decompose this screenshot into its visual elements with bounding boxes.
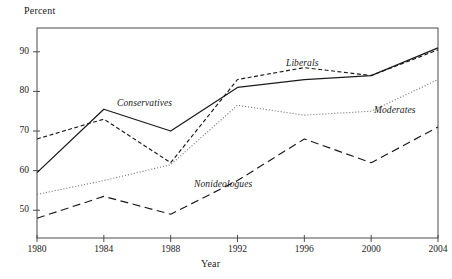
y-axis-title: Percent xyxy=(24,5,55,16)
y-tick-label: 90 xyxy=(7,46,29,56)
x-tick-label: 1980 xyxy=(19,244,55,254)
x-tick-label: 2000 xyxy=(353,244,389,254)
series-line-moderates xyxy=(37,80,438,195)
y-tick-label: 60 xyxy=(7,165,29,175)
x-tick-label: 1992 xyxy=(220,244,256,254)
y-tick-label: 70 xyxy=(7,125,29,135)
x-axis-title: Year xyxy=(201,258,220,269)
series-lines xyxy=(37,48,438,218)
series-label-moderates: Moderates xyxy=(374,105,416,115)
series-line-nonideologues xyxy=(37,127,438,218)
x-tick-label: 2004 xyxy=(420,244,452,254)
series-label-liberals: Liberals xyxy=(286,58,318,68)
x-tick-label: 1996 xyxy=(286,244,322,254)
x-tick-label: 1988 xyxy=(153,244,189,254)
series-label-conservatives: Conservatives xyxy=(117,98,172,108)
plot-frame xyxy=(37,28,438,238)
y-tick-label: 80 xyxy=(7,85,29,95)
y-tick-label: 50 xyxy=(7,204,29,214)
series-label-nonideologues: Nonideologues xyxy=(194,179,252,189)
x-tick-label: 1984 xyxy=(86,244,122,254)
